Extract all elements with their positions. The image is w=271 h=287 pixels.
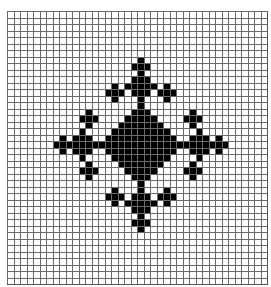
empty-cell bbox=[261, 278, 268, 285]
pixel-grid bbox=[7, 11, 268, 285]
